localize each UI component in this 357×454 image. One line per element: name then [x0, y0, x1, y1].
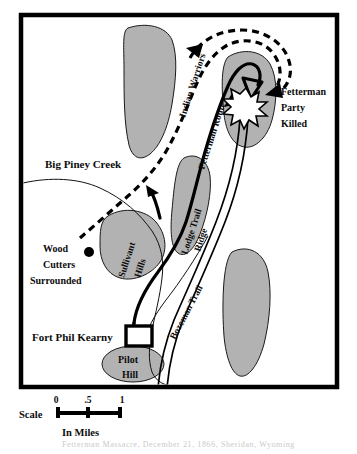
- label-big-piney-creek: Big Piney Creek: [45, 158, 122, 170]
- label-indian-warriors: Indian Warriors: [177, 52, 207, 119]
- figure-caption: Fetterman Massacre, December 21, 1866, S…: [0, 440, 357, 449]
- label-fetterman-party-killed-line2: Party: [281, 102, 305, 113]
- scale-tick-half: .5: [84, 395, 91, 405]
- scale-bar: [56, 407, 122, 418]
- label-fort-phil-kearny: Fort Phil Kearny: [32, 331, 113, 343]
- counterattack-arrowhead: [146, 185, 159, 197]
- scale-tick-0: 0: [54, 395, 59, 405]
- map-canvas: Big Piney Creek Indian Warriors Fetterma…: [0, 0, 357, 454]
- label-pilot: Pilot: [118, 354, 139, 365]
- label-fetterman-party-killed-line1: Fetterman: [281, 86, 326, 97]
- hill-shape-north: [124, 25, 176, 158]
- hill-shape-east: [223, 249, 270, 376]
- fort-phil-kearny-symbol: [126, 326, 152, 346]
- label-wood-cutters-line2: Cutters: [43, 259, 75, 270]
- scale-tick-1: 1: [120, 395, 125, 405]
- wood-cutters-marker-dot: [84, 247, 94, 257]
- label-hill: Hill: [122, 369, 138, 380]
- label-wood-cutters-line3: Surrounded: [30, 275, 82, 286]
- scale-units-label: In Miles: [62, 427, 99, 438]
- scale-label: Scale: [19, 409, 43, 420]
- label-wood-cutters-line1: Wood: [43, 243, 68, 254]
- label-fetterman-party-killed-line3: Killed: [281, 118, 308, 129]
- map-figure: Big Piney Creek Indian Warriors Fetterma…: [0, 0, 357, 454]
- label-fetterman-route: Fetterman Route: [196, 102, 227, 171]
